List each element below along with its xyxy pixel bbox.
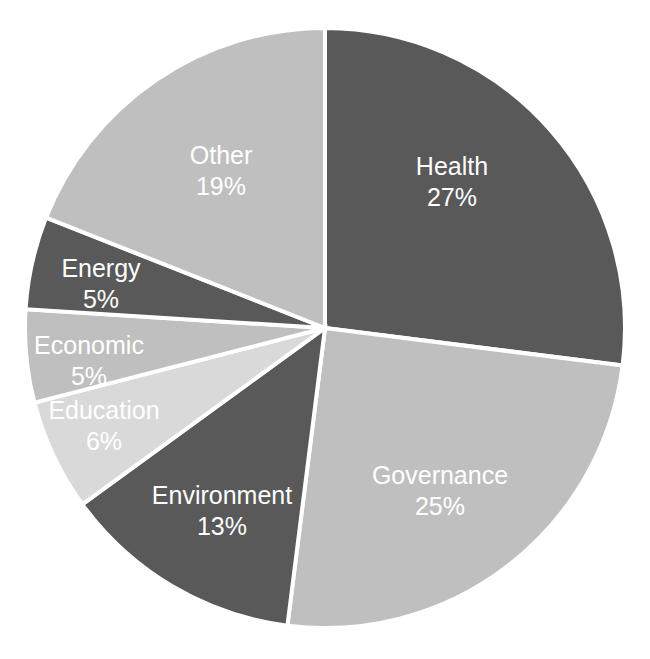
slice-label-value-economic: 5% [71, 362, 107, 390]
slice-label-name-governance: Governance [372, 461, 508, 489]
slice-label-value-governance: 25% [415, 492, 465, 520]
slice-label-name-economic: Economic [34, 331, 144, 359]
pie-chart-svg: Health27%Governance25%Environment13%Educ… [0, 0, 650, 659]
slice-label-value-energy: 5% [83, 285, 119, 313]
slice-label-value-health: 27% [427, 183, 477, 211]
pie-slices-group [25, 28, 625, 628]
pie-chart-figure: Health27%Governance25%Environment13%Educ… [0, 0, 650, 659]
slice-label-value-environment: 13% [197, 512, 247, 540]
slice-label-name-environment: Environment [152, 481, 292, 509]
slice-label-name-health: Health [416, 152, 488, 180]
slice-label-value-other: 19% [196, 172, 246, 200]
slice-label-name-education: Education [48, 396, 159, 424]
slice-label-name-other: Other [190, 141, 253, 169]
slice-label-name-energy: Energy [61, 254, 141, 282]
slice-label-value-education: 6% [86, 427, 122, 455]
